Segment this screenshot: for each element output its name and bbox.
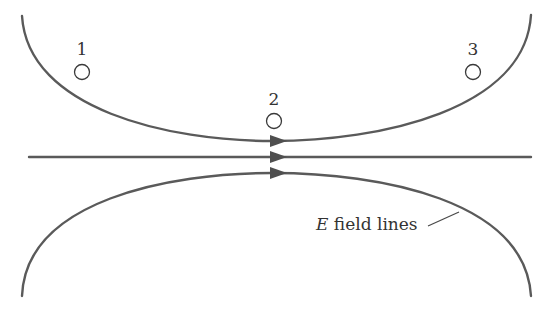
field-lines-caption: E field lines bbox=[315, 214, 418, 234]
point-1-marker-icon bbox=[75, 65, 90, 80]
field-lines-diagram: 1 2 3 E field lines bbox=[0, 0, 538, 312]
caption-rest: field lines bbox=[328, 214, 417, 234]
middle-arrow-icon bbox=[270, 151, 287, 163]
point-2-label: 2 bbox=[269, 89, 280, 109]
upper-arrow-icon bbox=[270, 135, 287, 147]
point-2-marker-icon bbox=[267, 114, 282, 129]
caption-italic-e: E bbox=[315, 214, 329, 234]
lower-field-line bbox=[22, 173, 531, 296]
point-3: 3 bbox=[466, 39, 481, 80]
lower-arrow-icon bbox=[270, 167, 287, 179]
point-3-label: 3 bbox=[468, 39, 479, 59]
point-3-marker-icon bbox=[466, 65, 481, 80]
point-2: 2 bbox=[267, 89, 282, 129]
caption-leader-line bbox=[428, 212, 459, 226]
point-1: 1 bbox=[75, 39, 90, 80]
upper-field-line bbox=[22, 15, 531, 141]
point-1-label: 1 bbox=[77, 39, 88, 59]
